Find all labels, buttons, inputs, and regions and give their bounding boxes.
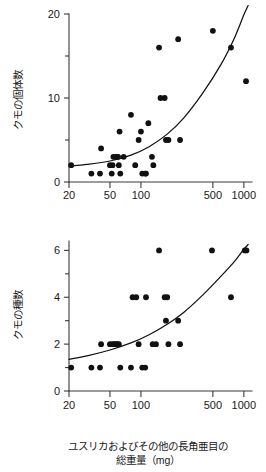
x-axis-tick-label: 20 [63, 189, 75, 201]
data-point [98, 146, 104, 152]
data-point [128, 365, 134, 371]
data-point [117, 129, 123, 135]
data-point [166, 137, 172, 143]
x-axis-tick-label: 1000 [232, 189, 256, 201]
data-point [117, 365, 123, 371]
data-point [117, 171, 123, 177]
data-point [97, 365, 103, 371]
data-point [209, 247, 215, 253]
x-axis-tick-label: 100 [132, 189, 150, 201]
data-point [68, 162, 74, 168]
data-point [110, 162, 116, 168]
data-point [145, 120, 151, 126]
scatter-plot-figure: 0102020501005001000 クモの個体数 0246205010050… [0, 0, 266, 472]
y-axis-tick-label: 4 [54, 291, 60, 303]
data-point [143, 171, 149, 177]
data-point [68, 365, 74, 371]
x-axis-tick-label: 100 [132, 399, 150, 411]
bottom-panel: 024620501005001000 クモの種数 [12, 241, 256, 411]
data-point [88, 365, 94, 371]
data-point [132, 162, 138, 168]
figure-container: 0102020501005001000 クモの個体数 0246205010050… [0, 0, 266, 472]
data-point [138, 129, 144, 135]
x-axis-tick-label: 50 [104, 399, 116, 411]
top-panel-y-axis-label: クモの個体数 [12, 69, 24, 130]
data-point [150, 162, 156, 168]
data-point [244, 247, 250, 253]
data-point [175, 318, 181, 324]
data-point [153, 341, 159, 347]
data-point [166, 341, 172, 347]
top-panel: 0102020501005001000 クモの個体数 [12, 6, 256, 201]
data-point [243, 78, 249, 84]
data-point [116, 341, 122, 347]
y-axis-tick-label: 20 [48, 8, 60, 20]
data-point [97, 171, 103, 177]
data-point [156, 247, 162, 253]
caption-line-2: 総重量（mg） [116, 454, 181, 466]
data-point [109, 171, 115, 177]
bottom-panel-y-axis-label: クモの種数 [12, 289, 24, 340]
y-axis-tick-label: 6 [54, 244, 60, 256]
data-point [128, 112, 134, 118]
data-point [142, 365, 148, 371]
regression-curve [69, 6, 248, 166]
data-point [88, 171, 94, 177]
data-point [156, 45, 162, 51]
x-axis-tick-label: 50 [104, 189, 116, 201]
data-point [164, 294, 170, 300]
data-point [162, 95, 168, 101]
data-point [143, 294, 149, 300]
bottom-panel-axes [64, 241, 252, 397]
data-point [149, 154, 155, 160]
x-axis-tick-label: 500 [204, 189, 222, 201]
bottom-panel-fit-curve [69, 245, 248, 360]
data-point [136, 341, 142, 347]
top-panel-axes [64, 14, 252, 188]
x-axis-tick-label: 1000 [232, 399, 256, 411]
data-point [121, 154, 127, 160]
y-axis-tick-label: 0 [54, 385, 60, 397]
x-axis-tick-label: 20 [63, 399, 75, 411]
data-point [116, 162, 122, 168]
data-point [177, 137, 183, 143]
data-point [133, 294, 139, 300]
caption-line-1: ユスリカおよびその他の長角亜目の [68, 440, 228, 452]
top-panel-fit-curve [69, 6, 248, 166]
y-axis-tick-label: 10 [48, 92, 60, 104]
y-axis-tick-label: 2 [54, 338, 60, 350]
data-point [210, 28, 216, 34]
bottom-panel-tick-labels: 024620501005001000 [54, 244, 256, 411]
data-point [228, 294, 234, 300]
bottom-panel-data-points [68, 247, 249, 370]
data-point [177, 341, 183, 347]
regression-curve [69, 245, 248, 360]
figure-caption: ユスリカおよびその他の長角亜目の 総重量（mg） [68, 440, 228, 466]
x-axis-tick-label: 500 [204, 399, 222, 411]
data-point [163, 318, 169, 324]
top-panel-data-points [68, 28, 249, 177]
data-point [175, 36, 181, 42]
top-panel-tick-labels: 0102020501005001000 [48, 8, 256, 201]
data-point [98, 341, 104, 347]
y-axis-tick-label: 0 [54, 176, 60, 188]
data-point [228, 45, 234, 51]
data-point [115, 154, 121, 160]
data-point [136, 137, 142, 143]
